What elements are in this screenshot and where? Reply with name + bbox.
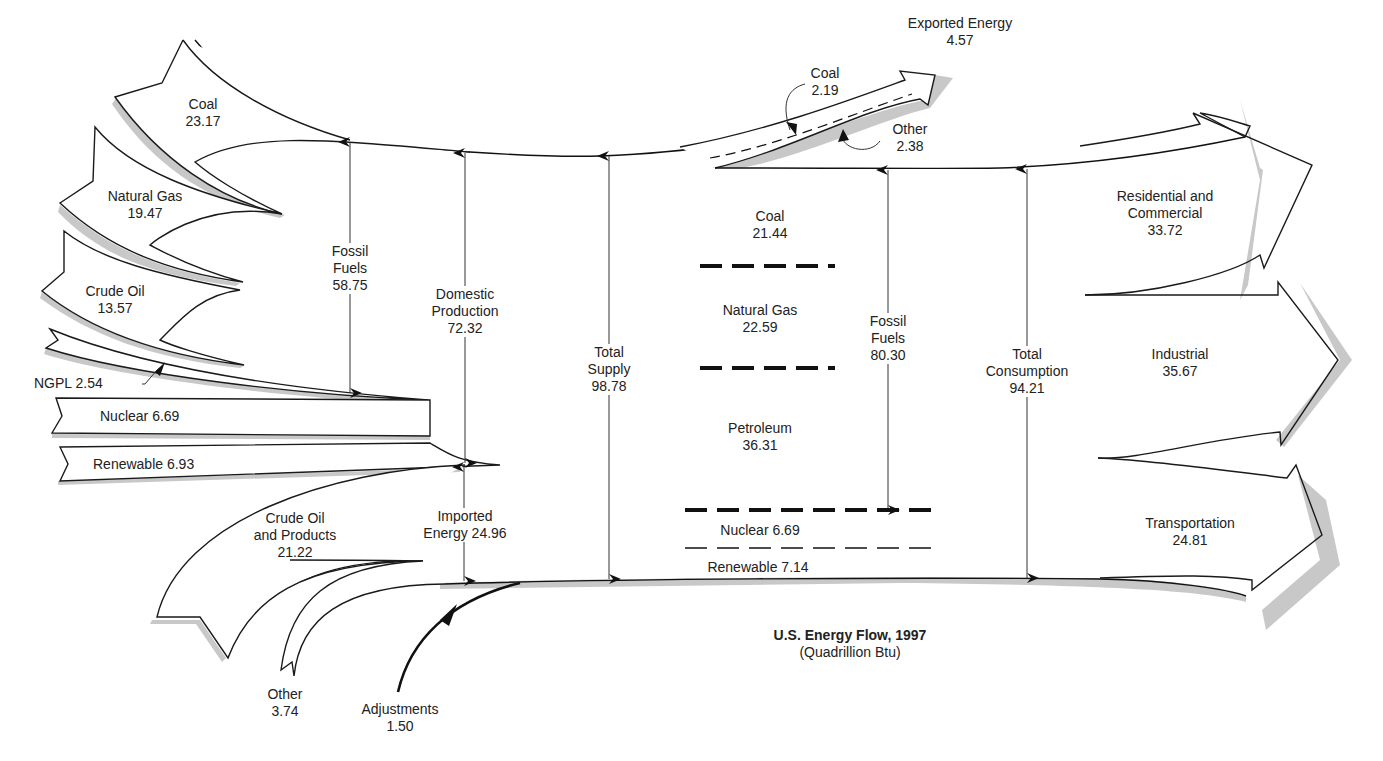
label-natural-gas-source: Natural Gas19.47 bbox=[95, 188, 195, 222]
label-renewable-source: Renewable 6.93 bbox=[93, 456, 223, 473]
label-petroleum-consumption: Petroleum36.31 bbox=[710, 420, 810, 454]
label-fossil-fuels-supply: FossilFuels58.75 bbox=[322, 243, 378, 294]
label-renewable-consumption: Renewable 7.14 bbox=[693, 559, 823, 576]
label-fossil-fuels-consumption: FossilFuels80.30 bbox=[860, 313, 916, 364]
label-other-import: Other3.74 bbox=[255, 686, 315, 720]
label-crude-oil-source: Crude Oil13.57 bbox=[75, 283, 155, 317]
label-crude-oil-products-import: Crude Oiland Products21.22 bbox=[235, 510, 355, 561]
label-nuclear-consumption: Nuclear 6.69 bbox=[705, 522, 815, 539]
label-industrial: Industrial35.67 bbox=[1145, 346, 1215, 380]
label-residential-commercial: Residential andCommercial33.72 bbox=[1100, 188, 1230, 239]
label-export-coal: Coal2.19 bbox=[805, 65, 845, 99]
label-total-consumption: TotalConsumption94.21 bbox=[977, 346, 1077, 397]
chart-title-block: U.S. Energy Flow, 1997 (Quadrillion Btu) bbox=[760, 627, 940, 661]
label-transportation: Transportation24.81 bbox=[1130, 515, 1250, 549]
label-adjustments: Adjustments1.50 bbox=[345, 701, 455, 735]
chart-subtitle: (Quadrillion Btu) bbox=[760, 644, 940, 661]
label-domestic-production: DomesticProduction72.32 bbox=[415, 286, 515, 337]
label-exported-energy: Exported Energy4.57 bbox=[895, 15, 1025, 49]
label-coal-source: Coal23.17 bbox=[168, 96, 238, 130]
label-total-supply: TotalSupply98.78 bbox=[574, 344, 644, 395]
label-export-other: Other2.38 bbox=[885, 121, 935, 155]
label-nuclear-source: Nuclear 6.69 bbox=[100, 408, 220, 425]
chart-title: U.S. Energy Flow, 1997 bbox=[760, 627, 940, 644]
label-imported-energy: ImportedEnergy 24.96 bbox=[410, 508, 520, 542]
label-ngpl-source: NGPL 2.54 bbox=[34, 375, 124, 392]
label-coal-consumption: Coal21.44 bbox=[720, 208, 820, 242]
adjustments-flow bbox=[398, 583, 520, 692]
label-natural-gas-consumption: Natural Gas22.59 bbox=[710, 302, 810, 336]
